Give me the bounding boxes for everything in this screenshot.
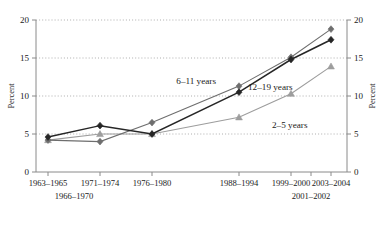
x-tick-label: 1976–1980 bbox=[133, 178, 172, 188]
y-tick-label-left: 10 bbox=[20, 91, 30, 101]
data-point bbox=[236, 114, 243, 120]
x-tick-label: 1971–1974 bbox=[81, 178, 120, 188]
x-tick-label: 1963–1965 bbox=[29, 178, 68, 188]
line-chart: 00551010151520201963–19651971–19741976–1… bbox=[0, 0, 389, 234]
x-tick-label-secondary: 2001–2002 bbox=[292, 191, 331, 201]
data-point bbox=[97, 138, 103, 145]
y-tick-label-right: 15 bbox=[354, 53, 364, 63]
y-tick-label-right: 0 bbox=[354, 167, 359, 177]
data-point bbox=[149, 119, 155, 126]
chart-container: 00551010151520201963–19651971–19741976–1… bbox=[0, 0, 389, 234]
series-annotation: 12–19 years bbox=[248, 82, 293, 92]
y-tick-label-left: 5 bbox=[25, 129, 30, 139]
y-tick-label-left: 0 bbox=[25, 167, 30, 177]
x-tick-label: 2003–2004 bbox=[312, 178, 351, 188]
series-annotation: 2–5 years bbox=[272, 120, 308, 130]
y-tick-label-left: 15 bbox=[20, 53, 30, 63]
data-point bbox=[328, 63, 335, 69]
y-tick-label-right: 10 bbox=[354, 91, 364, 101]
x-tick-label-secondary: 1966–1970 bbox=[55, 191, 94, 201]
data-point bbox=[328, 26, 334, 33]
data-point bbox=[97, 122, 103, 129]
y-axis-title-right: Percent bbox=[368, 83, 377, 109]
series-annotation: 6–11 years bbox=[176, 76, 216, 86]
data-point bbox=[328, 36, 334, 43]
y-tick-label-right: 20 bbox=[354, 15, 364, 25]
x-tick-label: 1999–2000 bbox=[272, 178, 311, 188]
x-tick-label: 1988–1994 bbox=[220, 178, 259, 188]
data-point bbox=[236, 89, 242, 96]
y-tick-label-left: 20 bbox=[20, 15, 30, 25]
y-axis-title-left: Percent bbox=[7, 83, 16, 109]
y-tick-label-right: 5 bbox=[354, 129, 359, 139]
